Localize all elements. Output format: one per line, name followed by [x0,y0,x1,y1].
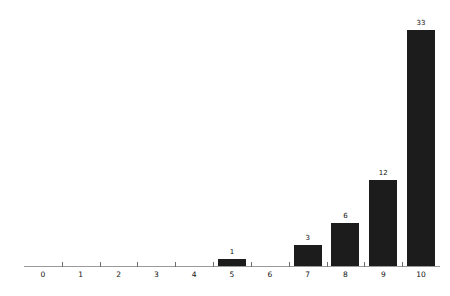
x-tick-label-4: 4 [192,271,197,279]
bar-slot: 3 [289,8,327,266]
x-tick-label-1: 1 [78,271,83,279]
x-axis-minor-tick [62,262,63,267]
bar-slot [175,8,213,266]
bar[interactable] [294,245,322,266]
x-axis-minor-tick [213,262,214,267]
bar-value-label: 3 [305,235,309,242]
bar-value-label: 6 [343,213,347,220]
x-tick-label-3: 3 [154,271,159,279]
bar-slot: 6 [327,8,365,266]
bar-value-label: 33 [417,20,426,27]
bar-slot [137,8,175,266]
x-axis-minor-tick [251,262,252,267]
x-tick-label-8: 8 [343,271,348,279]
plot-area: 1361233 [24,8,440,266]
x-tick-label-10: 10 [416,271,426,279]
bar-value-label: 1 [230,249,234,256]
x-tick-label-2: 2 [116,271,121,279]
x-axis-minor-tick [100,262,101,267]
bar[interactable] [331,223,359,266]
x-tick-label-9: 9 [381,271,386,279]
bar-slot [100,8,138,266]
bar-slot [251,8,289,266]
bar[interactable] [407,30,435,266]
bar-slot [62,8,100,266]
x-axis-minor-tick [402,262,403,267]
x-axis-line [24,266,440,267]
x-axis-minor-tick [364,262,365,267]
x-tick-label-6: 6 [267,271,272,279]
bar[interactable] [369,180,397,266]
bar-slot [24,8,62,266]
bar[interactable] [218,259,246,266]
x-axis-minor-tick [175,262,176,267]
bar-slot: 12 [364,8,402,266]
x-tick-label-7: 7 [305,271,310,279]
x-axis-minor-tick [289,262,290,267]
bar-slot: 1 [213,8,251,266]
bar-value-label: 12 [379,170,388,177]
x-axis-minor-tick [327,262,328,267]
x-tick-label-5: 5 [230,271,235,279]
x-axis-minor-tick [137,262,138,267]
bar-chart: 1361233 012345678910 [0,0,450,296]
bar-slot: 33 [402,8,440,266]
x-tick-label-0: 0 [41,271,46,279]
